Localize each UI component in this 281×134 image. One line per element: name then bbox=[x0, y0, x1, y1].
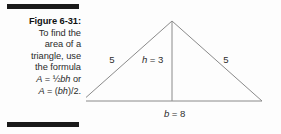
caption-line-3: triangle, use bbox=[2, 51, 81, 63]
label-height: h= 3 bbox=[142, 54, 163, 65]
caption-line-2: area of a bbox=[2, 39, 81, 51]
caption-text-block: Figure 6-31: To find the area of a trian… bbox=[2, 16, 81, 97]
figure-caption-column: Figure 6-31: To find the area of a trian… bbox=[0, 0, 86, 134]
label-height-var: h bbox=[142, 54, 147, 65]
figure-number-label: Figure 6-31: bbox=[29, 16, 81, 26]
label-right-side: 5 bbox=[223, 54, 228, 65]
label-base-var: b bbox=[164, 108, 170, 119]
caption-rule-bottom bbox=[7, 122, 79, 127]
formula-2-vars: bh bbox=[58, 86, 68, 96]
formula-2-equals: = ( bbox=[44, 86, 57, 96]
caption-line-4: the formula bbox=[2, 62, 81, 74]
formula-line-1: A = ½bh or bbox=[2, 74, 81, 86]
figure-container: Figure 6-31: To find the area of a trian… bbox=[0, 0, 281, 134]
formula-line-2: A = (bh)/2. bbox=[2, 86, 81, 98]
triangle-svg: 5 5 h= 3 b= 8 bbox=[86, 0, 281, 134]
label-base-value: = 8 bbox=[172, 108, 186, 119]
caption-line-1: To find the bbox=[2, 28, 81, 40]
label-base: b= 8 bbox=[164, 108, 185, 119]
label-height-value: = 3 bbox=[150, 54, 164, 65]
formula-1-conjunction: or bbox=[70, 74, 81, 84]
label-left-side: 5 bbox=[109, 54, 114, 65]
caption-rule-top bbox=[7, 4, 79, 9]
formula-1-vars: bh bbox=[60, 74, 70, 84]
figure-number-line: Figure 6-31: bbox=[2, 16, 81, 28]
formula-1-equals: = bbox=[42, 74, 52, 84]
formula-2-tail: )/2. bbox=[68, 86, 81, 96]
triangle-diagram: 5 5 h= 3 b= 8 bbox=[86, 0, 281, 134]
